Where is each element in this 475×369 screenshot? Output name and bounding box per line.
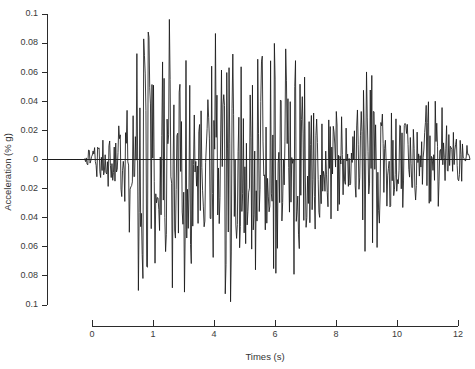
y-axis-tick-label: 0.02	[20, 125, 38, 135]
x-axis: 014681012	[89, 320, 463, 339]
x-axis-tick-label: 12	[453, 329, 463, 339]
y-axis-tick-label: 0.1	[25, 8, 38, 18]
x-axis-tick-label: 10	[392, 329, 402, 339]
acceleration-time-history-chart: 0.10.080.060.040.0200.020.040.060.080.1 …	[0, 0, 475, 369]
x-axis-tick-label: 0	[89, 329, 94, 339]
x-axis-tick-label: 4	[211, 329, 216, 339]
chart-canvas: 0.10.080.060.040.0200.020.040.060.080.1 …	[0, 0, 475, 369]
y-axis-tick-label: 0.06	[20, 241, 38, 251]
y-axis-tick-label: 0.08	[20, 37, 38, 47]
y-axis-title: Acceleration (% g)	[2, 133, 13, 211]
y-axis-tick-label: 0.06	[20, 67, 38, 77]
y-axis-tick-label: 0.04	[20, 212, 38, 222]
y-axis-tick-label: 0.04	[20, 96, 38, 106]
y-axis-tick-label: 0.08	[20, 270, 38, 280]
y-axis-tick-label: 0.1	[25, 299, 38, 309]
acceleration-trace	[47, 19, 470, 301]
x-axis-tick-label: 1	[150, 329, 155, 339]
x-axis-tick-label: 8	[333, 329, 338, 339]
y-axis-tick-label: 0	[33, 154, 38, 164]
y-axis: 0.10.080.060.040.0200.020.040.060.080.1	[20, 8, 47, 309]
x-axis-title: Times (s)	[245, 351, 284, 362]
x-axis-tick-label: 6	[272, 329, 277, 339]
y-axis-tick-label: 0.02	[20, 183, 38, 193]
